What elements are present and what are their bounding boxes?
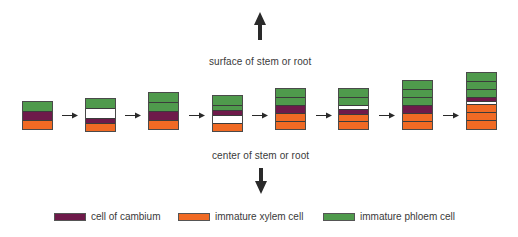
layer-xylem xyxy=(467,104,496,112)
cell-stack-1 xyxy=(22,101,53,130)
arrow-up-icon xyxy=(254,12,266,40)
arrow-right-icon xyxy=(125,112,141,119)
cell-stack-6 xyxy=(338,88,369,130)
cell-stack-7 xyxy=(402,80,433,130)
surface-label: surface of stem or root xyxy=(209,56,311,67)
layer-cambium xyxy=(23,111,52,120)
arrow-right-icon xyxy=(62,112,78,119)
arrow-right-icon xyxy=(379,112,395,119)
arrow-right-icon xyxy=(189,112,205,119)
center-label: center of stem or root xyxy=(212,150,309,161)
layer-phloem xyxy=(403,81,432,89)
layer-xylem xyxy=(339,121,368,129)
layer-xylem xyxy=(276,113,305,121)
layer-phloem xyxy=(403,89,432,97)
legend-label-cambium: cell of cambium xyxy=(91,211,160,222)
layer-white xyxy=(86,108,115,118)
layer-xylem xyxy=(276,121,305,129)
layer-phloem xyxy=(467,81,496,89)
layer-cambium xyxy=(149,111,178,120)
legend-label-xylem: immature xylem cell xyxy=(215,211,303,222)
layer-phloem xyxy=(403,97,432,105)
layer-phloem xyxy=(86,99,115,108)
swatch-xylem xyxy=(178,213,210,221)
cell-stack-5 xyxy=(275,88,306,130)
arrow-right-icon xyxy=(443,112,459,119)
legend-item-phloem: immature phloem cell xyxy=(323,211,455,222)
layer-xylem xyxy=(403,113,432,121)
layer-cambium xyxy=(276,105,305,113)
layer-phloem xyxy=(467,89,496,97)
swatch-phloem xyxy=(323,213,355,221)
layer-phloem xyxy=(213,96,242,105)
cell-stack-8 xyxy=(466,72,497,130)
layer-white xyxy=(213,115,242,123)
layer-xylem xyxy=(86,123,115,131)
cell-stack-4 xyxy=(212,95,243,132)
legend-label-phloem: immature phloem cell xyxy=(360,211,455,222)
layer-xylem xyxy=(149,120,178,129)
legend-item-xylem: immature xylem cell xyxy=(178,211,303,222)
arrow-right-icon xyxy=(252,112,268,119)
layer-cambium xyxy=(403,105,432,113)
legend-item-cambium: cell of cambium xyxy=(54,211,160,222)
layer-phloem xyxy=(23,102,52,111)
cell-stack-3 xyxy=(148,92,179,130)
layer-phloem xyxy=(339,97,368,105)
layer-xylem xyxy=(339,114,368,121)
layer-phloem xyxy=(339,89,368,97)
layer-xylem xyxy=(23,120,52,129)
cell-stack-2 xyxy=(85,98,116,132)
layer-phloem xyxy=(467,73,496,81)
layer-xylem xyxy=(213,123,242,131)
layer-xylem xyxy=(403,121,432,129)
swatch-cambium xyxy=(54,213,86,221)
layer-phloem xyxy=(149,93,178,102)
layer-xylem xyxy=(467,120,496,129)
layer-xylem xyxy=(467,112,496,120)
layer-phloem xyxy=(149,102,178,111)
arrow-down-icon xyxy=(255,168,267,194)
arrow-right-icon xyxy=(316,112,332,119)
layer-phloem xyxy=(276,97,305,105)
layer-phloem xyxy=(276,89,305,97)
